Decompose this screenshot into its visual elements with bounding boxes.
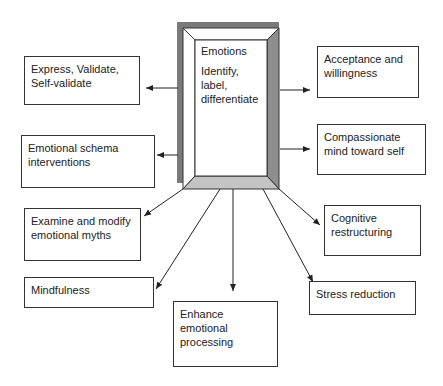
arrow-to-cognitive — [279, 189, 320, 225]
center-subtitle: Identify, label, differentiate — [201, 64, 258, 106]
center-title: Emotions — [201, 44, 247, 58]
center-box-inner — [195, 40, 267, 176]
center-bevel-bottom — [183, 176, 279, 189]
arrow-to-stress — [263, 189, 313, 282]
center-bevel-right — [267, 28, 279, 189]
diagram-canvas: Emotions Identify, label, differentiate … — [0, 0, 443, 386]
node-compassionate-mind: Compassionate mind toward self — [317, 124, 426, 175]
node-emotional-myths: Examine and modify emotional myths — [24, 208, 141, 261]
arrow-to-mindfulness — [156, 189, 220, 289]
node-express: Express, Validate, Self-validate — [24, 56, 140, 105]
node-cognitive-restructuring: Cognitive restructuring — [324, 205, 421, 256]
node-enhance-processing: Enhance emotional processing — [173, 301, 278, 367]
center-bevel-left — [183, 28, 195, 189]
node-emotional-schema: Emotional schema interventions — [21, 135, 155, 188]
node-acceptance: Acceptance and willingness — [317, 46, 419, 98]
node-stress-reduction: Stress reduction — [309, 281, 416, 315]
center-bevel-top — [183, 28, 279, 40]
arrow-to-myths — [144, 189, 183, 216]
node-mindfulness: Mindfulness — [24, 277, 154, 308]
